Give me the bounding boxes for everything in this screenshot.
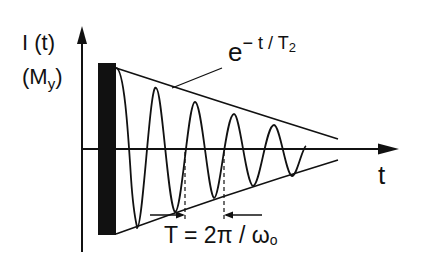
period-label-subscript: o <box>270 232 278 248</box>
envelope-exponent: − t / T2 <box>242 33 295 53</box>
time-axis-arrowhead-icon <box>378 144 399 155</box>
period-arrow-right-icon <box>176 212 185 219</box>
envelope-leader-line <box>172 68 222 88</box>
fid-diagram: I (t) (My) e− t / T2 t T = 2π / ωo <box>0 0 423 269</box>
y-axis <box>77 26 87 252</box>
period-label: T = 2π / ωo <box>164 224 277 247</box>
envelope-exponent-text: − t / T <box>242 33 288 53</box>
period-label-main: T = 2π / ω <box>164 222 270 248</box>
y-axis-arrowhead-icon <box>77 26 87 44</box>
y-axis-label: I (t) <box>22 32 55 54</box>
x-axis-label: t <box>378 162 385 188</box>
y-sublabel-main: (M <box>22 64 48 89</box>
y-axis-sublabel: (My) <box>22 66 62 91</box>
period-arrow-left-icon <box>224 212 233 219</box>
envelope-label: e− t / T2 <box>228 34 296 65</box>
rf-pulse-bar <box>98 63 116 235</box>
y-sublabel-close: ) <box>55 64 62 89</box>
envelope-exponent-subscript: 2 <box>289 40 296 55</box>
envelope-base: e <box>228 37 242 67</box>
